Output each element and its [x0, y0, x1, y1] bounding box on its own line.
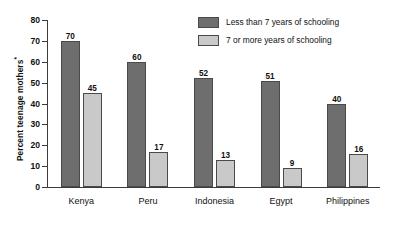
y-tick-label: 50	[30, 78, 40, 88]
bar-value-label: 60	[132, 53, 141, 62]
bar-value-label: 9	[290, 159, 295, 168]
y-tick-mark	[42, 187, 47, 188]
y-tick-mark	[42, 124, 47, 125]
legend-swatch-less-than-7-years	[198, 17, 219, 28]
y-tick-label: 10	[30, 161, 40, 171]
y-tick-label: 30	[30, 119, 40, 129]
bar-value-label: 52	[199, 69, 208, 78]
y-axis-title: Percent teenage mothers*	[15, 19, 25, 199]
y-axis-title-superscript: *	[13, 57, 20, 60]
bar-indonesia-series-1: 13	[216, 160, 235, 187]
y-tick-label: 60	[30, 57, 40, 67]
y-tick-label: 70	[30, 36, 40, 46]
legend-item-1: 7 or more years of schooling	[198, 33, 339, 47]
bar-indonesia-series-0: 52	[194, 78, 213, 187]
y-tick-mark	[42, 20, 47, 21]
y-tick-label: 20	[30, 140, 40, 150]
y-tick-mark	[42, 166, 47, 167]
bar-value-label: 40	[332, 95, 341, 104]
bar-kenya-series-1: 45	[83, 93, 102, 187]
x-axis-label-kenya: Kenya	[69, 196, 95, 206]
bar-value-label: 51	[266, 72, 275, 81]
bar-philippines-series-1: 16	[349, 154, 368, 187]
y-tick-label: 80	[30, 15, 40, 25]
x-axis-label-indonesia: Indonesia	[195, 196, 234, 206]
y-tick-label: 0	[35, 182, 40, 192]
bar-egypt-series-0: 51	[261, 81, 280, 187]
y-tick-mark	[42, 83, 47, 84]
legend-swatch-7-or-more-years	[198, 35, 219, 46]
x-axis-line	[47, 187, 380, 188]
bar-kenya-series-0: 70	[61, 41, 80, 187]
bar-value-label: 70	[66, 32, 75, 41]
x-axis-label-egypt: Egypt	[270, 196, 293, 206]
legend-label-less-than-7-years: Less than 7 years of schooling	[226, 17, 339, 27]
y-tick-mark	[42, 41, 47, 42]
legend: Less than 7 years of schooling 7 or more…	[198, 15, 339, 51]
bar-egypt-series-1: 9	[283, 168, 302, 187]
bar-chart: Percent teenage mothers* 010203040506070…	[0, 0, 405, 227]
bar-peru-series-0: 60	[127, 62, 146, 187]
x-axis-label-peru: Peru	[138, 196, 157, 206]
y-axis-title-text: Percent teenage mothers	[15, 60, 25, 161]
x-axis-label-philippines: Philippines	[326, 196, 370, 206]
bar-peru-series-1: 17	[149, 152, 168, 187]
bar-value-label: 16	[354, 145, 363, 154]
y-axis-line	[47, 20, 48, 188]
y-tick-mark	[42, 145, 47, 146]
bar-philippines-series-0: 40	[327, 104, 346, 188]
bar-value-label: 17	[154, 143, 163, 152]
y-tick-label: 40	[30, 99, 40, 109]
bar-value-label: 45	[88, 84, 97, 93]
y-tick-mark	[42, 104, 47, 105]
y-tick-mark	[42, 62, 47, 63]
bar-value-label: 13	[221, 151, 230, 160]
legend-item-0: Less than 7 years of schooling	[198, 15, 339, 29]
legend-label-7-or-more-years: 7 or more years of schooling	[226, 35, 332, 45]
